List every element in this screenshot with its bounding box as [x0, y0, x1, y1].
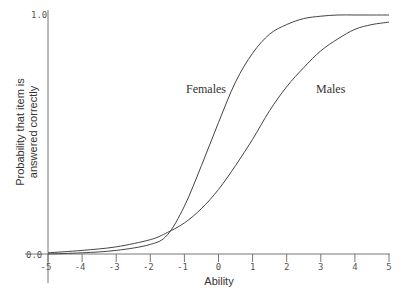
x-tick-label: 5 — [386, 262, 391, 272]
x-tick-label: 0 — [216, 262, 221, 272]
x-tick-label: 3 — [318, 262, 323, 272]
y-tick-0: 0.0 — [26, 250, 42, 260]
x-tick-label: -5 — [41, 262, 52, 272]
item-characteristic-chart: -5-4-3-2-1012345 1.0 0.0 Females Males A… — [0, 0, 404, 297]
cut-off-caption — [0, 289, 404, 297]
svg-text:answered correctly: answered correctly — [27, 85, 39, 178]
svg-text:Probability that item is: Probability that item is — [14, 78, 26, 186]
x-tick-label: 2 — [284, 262, 289, 272]
x-tick-label: 4 — [352, 262, 357, 272]
x-tick-label: 1 — [250, 262, 255, 272]
males-label: Males — [316, 82, 346, 96]
y-axis-title: Probability that item is answered correc… — [14, 78, 39, 186]
y-tick-1: 1.0 — [31, 10, 47, 20]
x-tick-label: -4 — [75, 262, 86, 272]
x-axis-title: Ability — [204, 275, 234, 287]
males-curve — [48, 22, 389, 253]
females-label: Females — [186, 82, 226, 96]
x-tick-label: -1 — [177, 262, 188, 272]
x-ticks: -5-4-3-2-1012345 — [41, 254, 392, 272]
x-tick-label: -2 — [143, 262, 154, 272]
x-tick-label: -3 — [109, 262, 120, 272]
females-curve — [48, 15, 389, 254]
